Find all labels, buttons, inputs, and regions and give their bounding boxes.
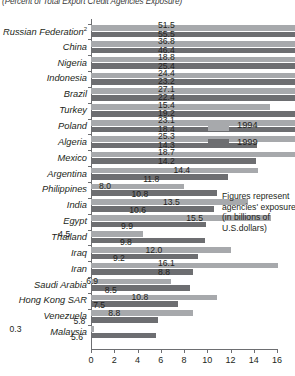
x-tick-label: 6 (158, 355, 163, 365)
bar-row (91, 261, 295, 277)
x-tick (138, 349, 139, 353)
category-label: Turkey (59, 105, 87, 115)
x-tick (207, 349, 208, 353)
legend-label-1999: 1999 (237, 137, 258, 147)
bar-row (91, 134, 295, 150)
value-label-1994: 15.5 (186, 213, 203, 223)
bar-row (91, 103, 295, 119)
bar-1994 (91, 120, 295, 126)
value-label-1994: 0.3 (9, 324, 21, 334)
x-tick (114, 349, 115, 353)
bar-1994 (91, 295, 217, 301)
x-tick (161, 349, 162, 353)
value-label-1999: 5.6 (71, 332, 83, 342)
value-label-1994: 6.9 (86, 276, 98, 286)
legend-label-1994: 1994 (237, 120, 258, 130)
bar-1994 (91, 73, 295, 79)
bar-row (91, 55, 295, 71)
bar-1994 (91, 326, 94, 332)
x-tick-label: 2 (112, 355, 117, 365)
annotation-line-2: agencies' exposure (222, 202, 295, 213)
annotation-line-1: Figures represent (222, 191, 295, 202)
category-label: India (67, 200, 87, 210)
bar-row (91, 166, 295, 182)
category-label: Iran (71, 264, 87, 274)
category-label: Saudi Arabia (34, 280, 87, 290)
x-tick (184, 349, 185, 353)
bar-row (91, 309, 295, 325)
bar-row (91, 293, 295, 309)
category-label: Russian Federation2 (3, 26, 87, 37)
category-label: Mexico (58, 153, 87, 163)
bar-row (91, 325, 295, 341)
legend-swatch-1994 (208, 122, 229, 131)
bar-1999 (91, 63, 295, 69)
bar-1999 (91, 95, 295, 101)
value-label-1994: 12.0 (146, 245, 163, 255)
footnote-marker: 2 (84, 26, 87, 32)
category-label: Algeria (58, 137, 87, 147)
x-tick (277, 349, 278, 353)
bar-1999 (91, 111, 295, 117)
bar-1999 (91, 79, 295, 85)
category-label: Brazil (64, 89, 87, 99)
value-label-1994: 8.0 (99, 181, 111, 191)
bar-1994 (91, 231, 143, 237)
category-label: Poland (58, 121, 87, 131)
category-label: Egypt (63, 216, 87, 226)
value-label-1994: 10.8 (132, 292, 149, 302)
bar-1999 (91, 238, 205, 244)
bar-row (91, 277, 295, 293)
bar-1994 (91, 88, 295, 94)
annotation-text: Figures represent agencies' exposure (in… (222, 191, 295, 233)
bar-1994 (91, 104, 270, 110)
category-label: Hong Kong SAR (19, 295, 87, 305)
bar-1994 (91, 136, 295, 142)
value-label-1994: 14.4 (173, 165, 190, 175)
category-label: Argentina (47, 169, 87, 179)
value-label-1999: 14.2 (158, 156, 175, 166)
x-tick-label: 8 (181, 355, 186, 365)
value-label-1999: 5.8 (73, 316, 85, 326)
value-label-1994: 13.5 (163, 197, 180, 207)
x-tick-label: 14 (249, 355, 259, 365)
bar-1999 (91, 48, 295, 54)
bar-1999 (91, 32, 295, 38)
x-tick-label: 4 (135, 355, 140, 365)
annotation-line-3: (in billions of (222, 212, 295, 223)
bar-row (91, 71, 295, 87)
x-tick (91, 349, 92, 353)
value-label-1994: 8.8 (108, 308, 120, 318)
bar-1994 (91, 25, 295, 31)
bar-1999 (91, 269, 193, 275)
bar-1994 (91, 41, 295, 47)
category-label: Indonesia (47, 73, 87, 83)
bar-row (91, 39, 295, 55)
bar-1994 (91, 279, 171, 285)
category-label: China (63, 42, 87, 52)
value-label-1999: 8.8 (158, 267, 170, 277)
legend-swatch-1999 (208, 139, 229, 148)
chart-title: (Percent of Total Export Credit Agencies… (2, 0, 292, 6)
bar-row (91, 119, 295, 135)
plot-area: Russian Federation251.555.5China36.846.4… (0, 19, 295, 349)
x-tick-label: 12 (225, 355, 235, 365)
x-tick (254, 349, 255, 353)
bar-1999 (91, 333, 156, 339)
bar-1999 (91, 317, 158, 323)
bar-row (91, 87, 295, 103)
bar-1994 (91, 263, 278, 269)
bar-1999 (91, 174, 228, 180)
bar-1994 (91, 152, 295, 158)
bar-1994 (91, 310, 193, 316)
value-label-1994: 4.5 (58, 229, 70, 239)
bar-1999 (91, 127, 295, 133)
bar-1994 (91, 57, 295, 63)
x-tick-label: 0 (88, 355, 93, 365)
annotation-line-4: U.S.dollars) (222, 223, 295, 234)
bar-row (91, 150, 295, 166)
x-tick (231, 349, 232, 353)
bar-row (91, 24, 295, 40)
bar-1999 (91, 254, 198, 260)
x-tick-label: 16 (272, 355, 282, 365)
